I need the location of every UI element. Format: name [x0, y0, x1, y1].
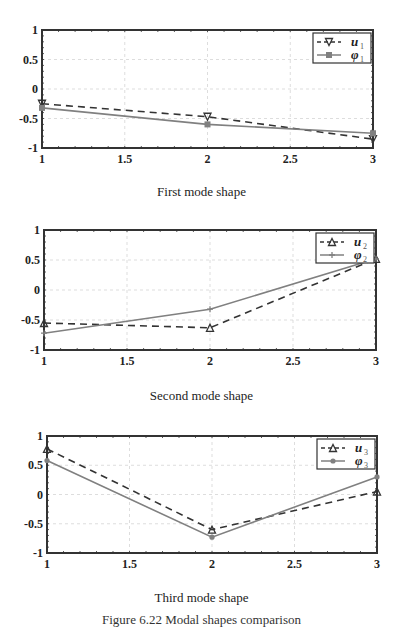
x-tick-label: 3 — [374, 557, 380, 571]
circle-marker-icon — [44, 458, 49, 463]
y-tick-label: 1 — [37, 429, 43, 443]
circle-marker-icon — [330, 458, 335, 463]
x-tick-label: 1 — [44, 557, 50, 571]
legend-subscript: 3 — [364, 448, 368, 457]
figure-caption: Figure 6.22 Modal shapes comparison — [0, 612, 403, 628]
legend: u3φ3 — [317, 439, 375, 470]
legend-label-phi3: φ — [355, 453, 363, 468]
x-tick-label: 2.5 — [287, 557, 302, 571]
y-tick-label: 0 — [37, 488, 43, 502]
y-tick-label: -0.5 — [24, 517, 43, 531]
x-tick-label: 2 — [209, 557, 215, 571]
circle-marker-icon — [209, 535, 214, 540]
x-tick-label: 1.5 — [122, 557, 137, 571]
circle-marker-icon — [374, 474, 379, 479]
y-tick-label: 0.5 — [28, 458, 43, 472]
chart-title: Third mode shape — [0, 590, 403, 606]
legend-subscript: 3 — [364, 461, 368, 470]
y-tick-label: -1 — [33, 546, 43, 560]
